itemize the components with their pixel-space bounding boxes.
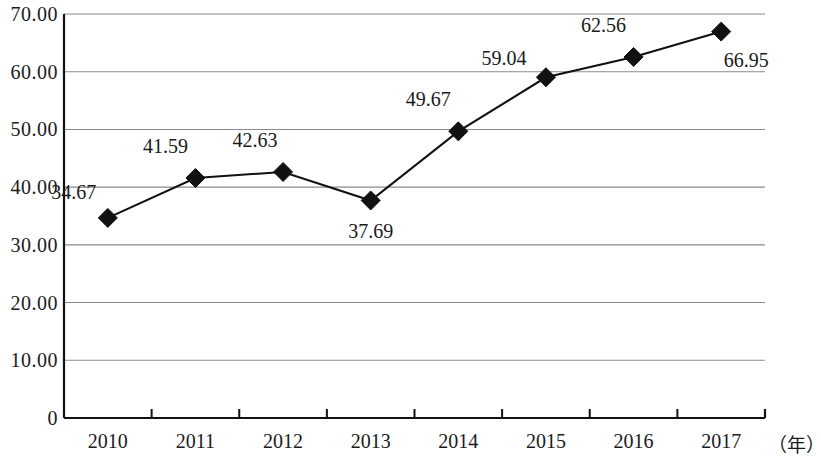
data-point-marker [186,168,205,187]
x-axis-tick-label: 2011 [176,430,215,453]
data-point-value-label: 49.67 [406,88,451,111]
data-point-marker [98,208,117,227]
x-axis-tick-label: 2013 [351,430,391,453]
x-axis-tick-label: 2016 [614,430,654,453]
x-axis-tick-label: 2015 [526,430,566,453]
line-chart: 70.0060.0050.0040.0030.0020.0010.000 201… [0,0,821,458]
x-axis-ticks [152,409,678,418]
chart-plot-area [0,0,821,458]
x-axis-title: （年） [768,430,821,457]
data-point-value-label: 59.04 [481,47,526,70]
data-point-value-label: 37.69 [348,220,393,243]
data-point-marker [361,191,380,210]
data-point-marker [449,122,468,141]
data-point-markers [98,22,730,227]
gridlines [64,14,765,360]
axes [64,14,765,418]
data-point-value-label: 34.67 [51,180,96,203]
data-point-marker [536,68,555,87]
data-point-value-label: 41.59 [143,134,188,157]
data-point-marker [712,22,731,41]
data-point-value-label: 66.95 [724,48,769,71]
x-axis-tick-label: 2017 [701,430,741,453]
data-point-marker [624,47,643,66]
x-axis-tick-label: 2012 [263,430,303,453]
data-point-value-label: 62.56 [581,13,626,36]
x-axis-tick-label: 2010 [88,430,128,453]
x-axis-tick-label: 2014 [438,430,478,453]
data-point-marker [274,162,293,181]
data-point-value-label: 42.63 [233,128,278,151]
